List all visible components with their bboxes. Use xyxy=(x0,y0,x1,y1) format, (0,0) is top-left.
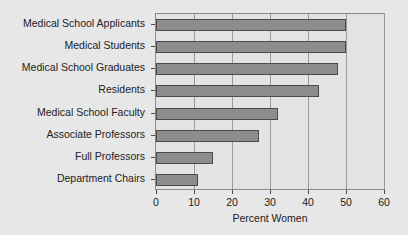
y-tick-mark xyxy=(151,135,155,136)
gridline xyxy=(384,14,385,189)
plot-area xyxy=(155,13,385,190)
bar xyxy=(156,174,198,186)
category-label: Residents xyxy=(0,84,145,95)
y-tick-mark xyxy=(151,179,155,180)
x-tick-mark xyxy=(232,190,233,194)
category-label: Associate Professors xyxy=(0,129,145,140)
bar xyxy=(156,108,278,120)
plot-inner xyxy=(156,14,384,189)
x-tick-label: 50 xyxy=(340,196,352,208)
x-axis-title: Percent Women xyxy=(155,212,385,224)
category-axis-labels: Medical School ApplicantsMedical Student… xyxy=(0,13,150,190)
x-tick-label: 0 xyxy=(153,196,159,208)
gridline xyxy=(346,14,347,189)
bar xyxy=(156,63,338,75)
category-label: Medical School Faculty xyxy=(0,107,145,118)
x-tick-mark xyxy=(156,190,157,194)
x-tick-mark xyxy=(308,190,309,194)
x-tick-label: 10 xyxy=(188,196,200,208)
x-tick-label: 40 xyxy=(302,196,314,208)
x-tick-label: 20 xyxy=(226,196,238,208)
y-tick-mark xyxy=(151,113,155,114)
category-label: Full Professors xyxy=(0,151,145,162)
category-label: Medical Students xyxy=(0,40,145,51)
y-tick-mark xyxy=(151,46,155,47)
x-tick-label: 30 xyxy=(264,196,276,208)
x-tick-label: 60 xyxy=(378,196,390,208)
bar xyxy=(156,41,346,53)
x-tick-mark xyxy=(384,190,385,194)
y-tick-mark xyxy=(151,90,155,91)
bar-chart: Medical School ApplicantsMedical Student… xyxy=(0,0,408,235)
y-tick-mark xyxy=(151,24,155,25)
category-label: Medical School Applicants xyxy=(0,18,145,29)
y-tick-mark xyxy=(151,157,155,158)
category-label: Department Chairs xyxy=(0,173,145,184)
y-tick-mark xyxy=(151,68,155,69)
x-tick-mark xyxy=(346,190,347,194)
category-label: Medical School Graduates xyxy=(0,62,145,73)
bar xyxy=(156,130,259,142)
bar xyxy=(156,152,213,164)
bar xyxy=(156,85,319,97)
bar xyxy=(156,19,346,31)
x-tick-mark xyxy=(270,190,271,194)
x-tick-mark xyxy=(194,190,195,194)
